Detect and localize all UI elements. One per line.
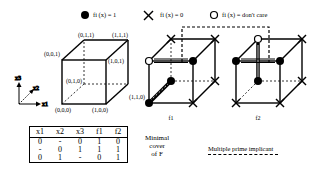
hollow-circle-icon (211, 12, 218, 19)
minimal-cover-table: x1 x2 x3 f1 f2 0 - 0 1 0 - 0 1 1 1 0 1 -… (29, 126, 128, 163)
header-x1: x1 (30, 127, 51, 138)
filled-circle-icon (232, 57, 240, 65)
legend-on-label: fi (x) = 1 (93, 11, 116, 19)
multiple-prime-implicant-bracket (182, 27, 269, 62)
x-cross-icon (144, 11, 153, 20)
caption-line: Minimal (145, 134, 169, 142)
table-cell: 1 (109, 154, 128, 163)
table-caption: Minimal cover of F (145, 134, 169, 158)
hollow-circle-icon (255, 36, 262, 43)
reference-cube (62, 40, 128, 104)
multiple-prime-implicant-label: Multiple prime implicant (208, 145, 273, 152)
reference-cube-vertex-labels: (0,0,0) (1,0,0) (0,0,1) (1,0,1) (0,1,0) … (44, 32, 145, 114)
legend: fi (x) = 1 fi (x) = 0 fi (x) = don't car… (81, 11, 267, 20)
caption-line: cover (145, 142, 169, 150)
vertex-label-110: (1,1,0) (129, 94, 145, 101)
table-header-row: x1 x2 x3 f1 f2 (30, 127, 128, 138)
cube-f2 (236, 39, 302, 103)
cube-f2-label: f2 (256, 115, 261, 121)
header-x3: x3 (70, 127, 90, 138)
arrow-right-icon (36, 102, 41, 107)
caption-line: of F (145, 150, 169, 158)
filled-circle-icon (145, 99, 153, 107)
header-f1: f1 (90, 127, 109, 138)
filled-circle-icon (189, 57, 197, 65)
cube-f1 (149, 39, 215, 103)
cube-f1-label: f1 (169, 115, 174, 121)
filled-circle-icon (276, 57, 284, 65)
axis-label-x1: x1 (42, 101, 48, 107)
axes-indicator: x3 x2 x1 (15, 75, 48, 107)
table-row: 0 1 - 0 1 (30, 154, 128, 163)
table-cell: 0 (30, 154, 51, 163)
vertex-label-000: (0,0,0) (55, 107, 71, 114)
header-f2: f2 (109, 127, 128, 138)
vertex-label-101: (1,0,1) (108, 58, 124, 65)
arrow-up-icon (17, 82, 22, 87)
vertex-label-111: (1,1,1) (112, 32, 128, 39)
dashed-line-key (208, 154, 278, 155)
table-cell: 0 (90, 154, 109, 163)
legend-off-label: fi (x) = 0 (160, 11, 183, 19)
legend-dc-label: fi (x) = don't care (222, 11, 267, 19)
table-cell: 1 (50, 154, 70, 163)
vertex-label-011: (0,1,1) (78, 32, 94, 39)
axis-label-x3: x3 (15, 75, 21, 81)
axis-label-x2: x2 (33, 85, 39, 91)
filled-circle-icon (167, 77, 175, 85)
hollow-circle-icon (146, 58, 153, 65)
vertex-label-100: (1,0,0) (92, 107, 108, 114)
filled-circle-icon (254, 77, 262, 85)
header-x2: x2 (50, 127, 70, 138)
vertex-label-010: (0,1,0) (66, 78, 82, 85)
vertex-label-001: (0,0,1) (44, 51, 60, 58)
filled-circle-icon (81, 11, 89, 19)
table-cell: - (70, 154, 90, 163)
